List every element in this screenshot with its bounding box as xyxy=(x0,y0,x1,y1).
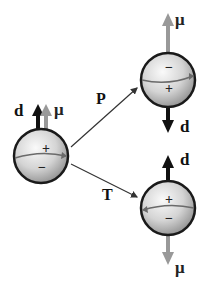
original-d-label: d xyxy=(14,101,23,121)
labels-layer: + − d μ P − + μ d T + − d μ xyxy=(0,0,208,287)
parity-bottom-sign: + xyxy=(163,81,175,97)
time-reversal-transform-label: T xyxy=(102,186,113,204)
parity-d-label: d xyxy=(180,117,189,137)
parity-top-sign: − xyxy=(163,60,175,76)
time-reversal-d-label: d xyxy=(180,150,189,170)
time-reversal-bottom-sign: − xyxy=(163,211,175,227)
original-bottom-sign: − xyxy=(36,160,48,176)
original-top-sign: + xyxy=(40,141,52,157)
time-reversal-mu-label: μ xyxy=(175,258,185,278)
parity-mu-label: μ xyxy=(175,10,185,30)
original-mu-label: μ xyxy=(54,100,64,120)
parity-transform-label: P xyxy=(96,90,106,108)
time-reversal-top-sign: + xyxy=(163,192,175,208)
